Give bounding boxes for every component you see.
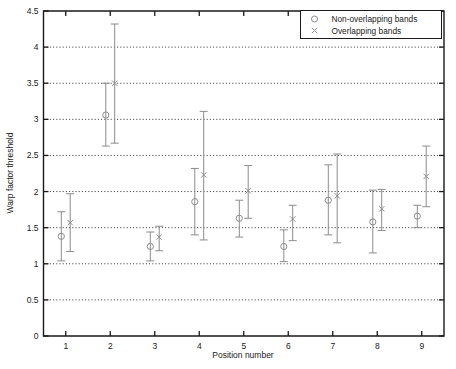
datapoint — [102, 83, 110, 146]
datapoint — [333, 154, 341, 243]
data-series-layer — [57, 24, 430, 262]
axes-layer — [44, 11, 445, 336]
chart-figure: 00.511.522.533.544.5123456789 Non-overla… — [0, 0, 456, 369]
y-axis-label: Warp factor threshold — [5, 132, 15, 213]
tick-labels-layer: 00.511.522.533.544.5123456789 — [27, 6, 425, 351]
datapoint — [66, 194, 74, 252]
y-tick-label: 1.5 — [27, 223, 39, 233]
series-overlapping-bands — [66, 24, 430, 252]
datapoint — [413, 205, 421, 227]
x-tick-label: 6 — [286, 341, 291, 351]
x-tick-label: 3 — [152, 341, 157, 351]
datapoint — [191, 168, 199, 234]
y-tick-label: 2.5 — [27, 150, 39, 160]
gridlines — [44, 47, 445, 300]
datapoint — [422, 146, 430, 207]
datapoint — [289, 205, 297, 240]
datapoint — [378, 189, 386, 230]
x-tick-label: 4 — [197, 341, 202, 351]
legend-label: Non-overlapping bands — [332, 14, 418, 24]
x-tick-label: 9 — [419, 341, 424, 351]
datapoint — [235, 200, 243, 237]
datapoint — [200, 111, 208, 240]
y-tick-label: 1 — [34, 259, 39, 269]
x-tick-label: 8 — [375, 341, 380, 351]
y-tick-label: 4.5 — [27, 6, 39, 16]
x-tick-label: 1 — [63, 341, 68, 351]
scatter-plot-with-error-bars: 00.511.522.533.544.5123456789 Non-overla… — [0, 0, 456, 369]
datapoint — [146, 232, 154, 261]
x-tick-label: 7 — [330, 341, 335, 351]
datapoint — [369, 190, 377, 253]
y-tick-label: 2 — [34, 187, 39, 197]
legend-label: Overlapping bands — [332, 26, 402, 36]
datapoint — [324, 165, 332, 235]
series-non-overlapping-bands — [57, 83, 421, 261]
datapoint — [155, 226, 163, 251]
datapoint — [280, 230, 288, 262]
axis-frame — [44, 11, 445, 336]
y-tick-label: 0.5 — [27, 295, 39, 305]
datapoint — [57, 212, 65, 261]
y-tick-label: 3.5 — [27, 78, 39, 88]
x-axis-label: Position number — [212, 350, 274, 360]
y-tick-label: 4 — [34, 42, 39, 52]
y-tick-label: 3 — [34, 114, 39, 124]
x-tick-label: 2 — [108, 341, 113, 351]
chart-legend: Non-overlapping bandsOverlapping bands — [301, 11, 442, 39]
y-tick-label: 0 — [34, 331, 39, 341]
